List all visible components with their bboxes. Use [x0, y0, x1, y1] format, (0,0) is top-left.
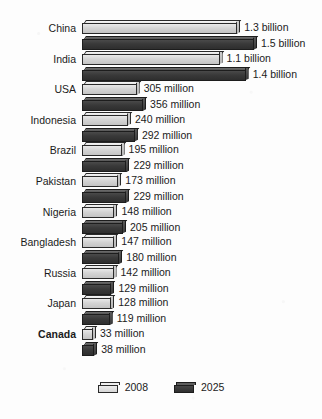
bar-value-japan-2008: 128 million — [118, 296, 168, 308]
legend-item-2008: 2008 — [98, 381, 148, 393]
bar-nigeria-2025 — [82, 220, 127, 234]
bar-value-bangladesh-2008: 147 million — [121, 235, 171, 247]
bar-value-usa-2025: 356 million — [150, 98, 200, 110]
category-label-canada: Canada — [0, 329, 76, 340]
category-label-usa: USA — [0, 84, 76, 95]
bar-japan-2008 — [82, 295, 115, 309]
category-label-russia: Russia — [0, 268, 76, 279]
bar-russia-2025 — [82, 281, 115, 295]
bar-value-pakistan-2025: 229 million — [133, 190, 183, 202]
bar-value-indonesia-2008: 240 million — [135, 113, 185, 125]
bar-usa-2008 — [82, 81, 141, 95]
bar-value-china-2025: 1.5 billion — [261, 37, 305, 49]
legend-label-2025: 2025 — [201, 381, 224, 393]
chart-row: Bangladesh147 million180 million — [0, 234, 322, 264]
bar-value-usa-2008: 305 million — [144, 82, 194, 94]
bar-canada-2008 — [82, 326, 97, 340]
bar-indonesia-2008 — [82, 112, 132, 126]
bar-value-japan-2025: 119 million — [117, 312, 166, 324]
chart-row: Brazil195 million229 million — [0, 142, 322, 172]
category-label-indonesia: Indonesia — [0, 115, 76, 126]
bar-brazil-2008 — [82, 142, 126, 156]
chart-row: Canada33 million38 million — [0, 326, 322, 356]
chart-row: Indonesia240 million292 million — [0, 112, 322, 142]
chart-row: USA305 million356 million — [0, 81, 322, 111]
bar-pakistan-2008 — [82, 173, 122, 187]
bar-india-2008 — [82, 51, 224, 65]
chart-row: Russia142 million129 million — [0, 265, 322, 295]
bar-russia-2008 — [82, 265, 118, 279]
category-label-bangladesh: Bangladesh — [0, 237, 76, 248]
category-label-india: India — [0, 54, 76, 65]
bar-japan-2025 — [82, 311, 114, 325]
category-label-nigeria: Nigeria — [0, 207, 76, 218]
chart-plot-area: China1.3 billion1.5 billionIndia1.1 bill… — [0, 0, 322, 366]
chart-row: Japan128 million119 million — [0, 295, 322, 325]
bar-value-brazil-2025: 229 million — [133, 159, 183, 171]
chart-legend: 2008 2025 — [0, 381, 322, 393]
bar-value-canada-2008: 33 million — [100, 327, 144, 339]
bar-value-pakistan-2008: 173 million — [125, 174, 175, 186]
dark-bar-swatch-icon — [174, 382, 196, 393]
bar-value-bangladesh-2025: 180 million — [126, 251, 176, 263]
bar-china-2008 — [82, 20, 241, 34]
bar-value-nigeria-2008: 148 million — [121, 205, 171, 217]
category-label-china: China — [0, 23, 76, 34]
chart-row: India1.1 billion1.4 billion — [0, 51, 322, 81]
bar-value-canada-2025: 38 million — [101, 343, 145, 355]
bar-value-india-2025: 1.4 billion — [253, 68, 297, 80]
bar-value-china-2008: 1.3 billion — [244, 21, 288, 33]
bar-value-indonesia-2025: 292 million — [142, 129, 192, 141]
bar-indonesia-2025 — [82, 128, 139, 142]
bar-canada-2025 — [82, 342, 98, 356]
bar-india-2025 — [82, 67, 250, 81]
chart-row: China1.3 billion1.5 billion — [0, 20, 322, 50]
chart-row: Nigeria148 million205 million — [0, 204, 322, 234]
light-bar-swatch-icon — [98, 382, 120, 393]
bar-value-nigeria-2025: 205 million — [130, 221, 180, 233]
bar-brazil-2025 — [82, 158, 130, 172]
bar-bangladesh-2008 — [82, 234, 118, 248]
chart-row: Pakistan173 million229 million — [0, 173, 322, 203]
category-label-brazil: Brazil — [0, 145, 76, 156]
legend-item-2025: 2025 — [174, 381, 224, 393]
bar-pakistan-2025 — [82, 189, 130, 203]
bar-value-brazil-2008: 195 million — [129, 143, 179, 155]
bar-usa-2025 — [82, 97, 147, 111]
bar-value-russia-2008: 142 million — [121, 266, 171, 278]
bar-nigeria-2008 — [82, 204, 118, 218]
legend-label-2008: 2008 — [125, 381, 148, 393]
category-label-japan: Japan — [0, 298, 76, 309]
bar-china-2025 — [82, 36, 258, 50]
bar-bangladesh-2025 — [82, 250, 123, 264]
population-bar-chart: China1.3 billion1.5 billionIndia1.1 bill… — [0, 0, 322, 419]
bar-value-india-2008: 1.1 billion — [227, 52, 271, 64]
category-label-pakistan: Pakistan — [0, 176, 76, 187]
bar-value-russia-2025: 129 million — [118, 282, 168, 294]
